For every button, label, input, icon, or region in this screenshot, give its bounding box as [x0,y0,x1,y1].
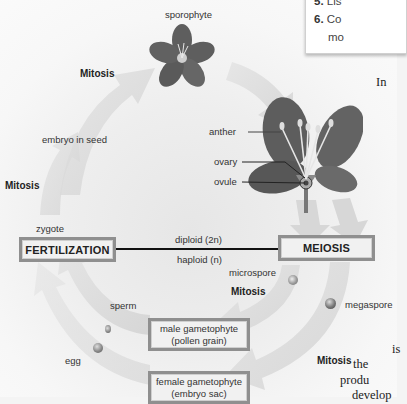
fertilization-box: FERTILIZATION [19,237,116,262]
body-text-fragment: produ [340,373,369,388]
label-egg: egg [65,355,81,366]
sperm-icon [105,325,111,333]
review-questions-box: 5. Lis 6. Co mo [305,0,407,54]
label-mitosis-mid: Mitosis [231,286,265,297]
male-gametophyte-box: male gametophyte (pollen grain) [148,318,250,351]
label-embryo-in-seed: embryo in seed [42,134,107,145]
label-sperm: sperm [110,300,136,311]
microspore-icon [288,275,298,285]
label-ovule: ovule [214,176,237,187]
label-megaspore: megaspore [345,299,393,310]
label-sporophyte: sporophyte [165,9,212,20]
question-5: 5. Lis [314,0,342,7]
label-microspore: microspore [229,267,276,278]
body-text-fragment: is [392,342,400,357]
label-haploid: haploid (n) [177,254,222,265]
label-mitosis-bottom: Mitosis [317,355,351,366]
female-gametophyte-box: female gametophyte (embryo sac) [148,371,250,404]
question-6-continued: mo [328,31,344,43]
label-zygote: zygote [36,223,64,234]
megaspore-icon [325,298,336,309]
body-text-fragment: In [376,75,386,90]
label-mitosis-left: Mitosis [5,180,39,191]
egg-icon [93,343,103,353]
label-anther: anther [209,126,236,137]
label-ovary: ovary [214,156,237,167]
label-diploid: diploid (2n) [175,234,222,245]
label-mitosis-top: Mitosis [80,68,114,79]
question-6: 6. Co [314,13,342,25]
body-text-fragment: develop [352,388,392,403]
meiosis-box: MEIOSIS [278,235,375,261]
body-text-fragment: the [353,357,368,372]
ploidy-divider-line [116,248,279,250]
